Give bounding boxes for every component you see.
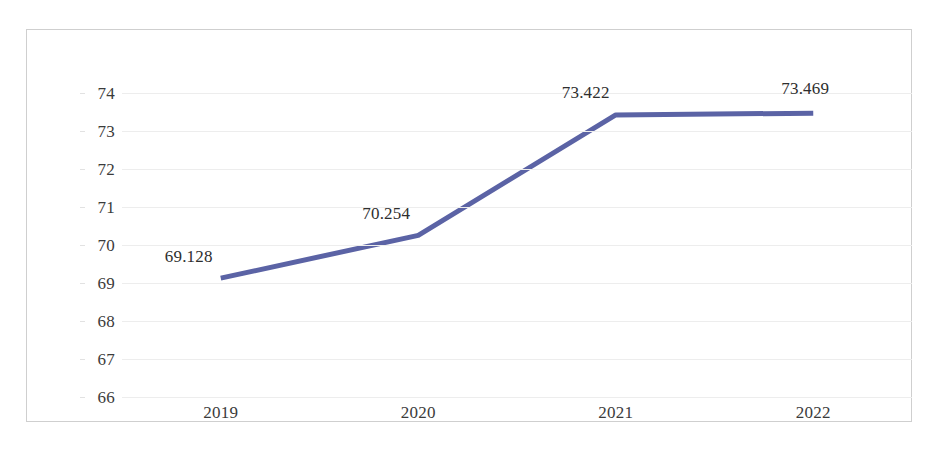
y-tick-mark-68: [80, 321, 85, 322]
x-axis: 2019202020212022: [122, 404, 912, 430]
data-point-label-2020: 70.254: [362, 205, 410, 222]
gridline-68: [122, 321, 912, 322]
gridline-71: [122, 207, 912, 208]
gridline-72: [122, 169, 912, 170]
y-tick-mark-70: [80, 245, 85, 246]
y-tick-mark-71: [80, 207, 85, 208]
chart-frame: 666768697071727374 69.12870.25473.42273.…: [26, 29, 912, 422]
gridline-66: [122, 397, 912, 398]
plot-area: 69.12870.25473.42273.469: [122, 93, 912, 397]
y-tick-mark-74: [80, 93, 85, 94]
data-point-label-2022: 73.469: [781, 80, 829, 97]
y-tick-mark-66: [80, 397, 85, 398]
chart-screenshot: 666768697071727374 69.12870.25473.42273.…: [0, 0, 932, 449]
x-axis-label-2020: 2020: [358, 404, 478, 421]
y-tick-mark-73: [80, 131, 85, 132]
x-axis-label-2019: 2019: [161, 404, 281, 421]
gridline-73: [122, 131, 912, 132]
data-point-label-2021: 73.422: [562, 83, 610, 100]
gridline-67: [122, 359, 912, 360]
x-axis-label-2021: 2021: [556, 404, 676, 421]
y-tick-mark-72: [80, 169, 85, 170]
y-tick-mark-67: [80, 359, 85, 360]
data-point-label-2019: 69.128: [165, 248, 213, 265]
gridline-69: [122, 283, 912, 284]
x-axis-label-2022: 2022: [753, 404, 873, 421]
gridline-70: [122, 245, 912, 246]
series-1-line: [221, 113, 814, 278]
y-tick-mark-69: [80, 283, 85, 284]
y-axis: 666768697071727374: [69, 93, 115, 397]
